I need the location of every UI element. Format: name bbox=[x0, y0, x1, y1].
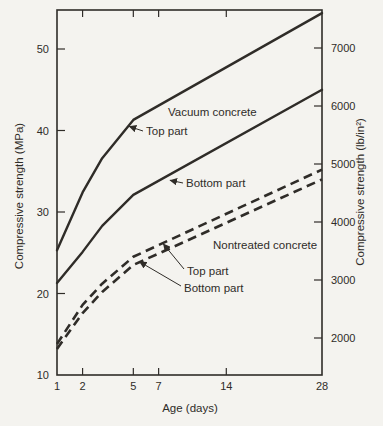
x-axis-tick-label: 1 bbox=[54, 380, 60, 392]
y-left-tick-label: 10 bbox=[37, 369, 49, 381]
vacuum-bottom-part-label-arrow bbox=[170, 180, 183, 183]
nontreated-top-part-label-arrow bbox=[163, 244, 184, 269]
vacuum-concrete-label: Vacuum concrete bbox=[168, 106, 257, 118]
vacuum-bottom-part-label: Bottom part bbox=[186, 177, 246, 189]
x-axis-tick-label: 5 bbox=[130, 380, 136, 392]
y-left-tick-label: 30 bbox=[37, 206, 49, 218]
nontreated-bottom-part-label: Bottom part bbox=[184, 282, 244, 294]
plot-frame bbox=[57, 10, 322, 375]
concrete-strength-chart: 1257142810203040502000300040005000600070… bbox=[0, 0, 383, 426]
vacuum-top-part-label-arrow bbox=[129, 126, 143, 131]
nontreated-concrete-label: Nontreated concrete bbox=[213, 239, 317, 251]
y-right-tick-label: 7000 bbox=[331, 42, 355, 54]
vacuum-top-part-label: Top part bbox=[146, 125, 188, 137]
x-axis-tick-label: 7 bbox=[156, 380, 162, 392]
x-axis-tick-label: 2 bbox=[80, 380, 86, 392]
axes-layer: 1257142810203040502000300040005000600070… bbox=[37, 10, 356, 392]
y-left-tick-label: 50 bbox=[37, 43, 49, 55]
y-right-axis-title: Compressive strength (lb/in²) bbox=[354, 118, 366, 266]
y-right-tick-label: 6000 bbox=[331, 100, 355, 112]
y-right-tick-label: 3000 bbox=[331, 274, 355, 286]
series-vacuum-top-line bbox=[57, 13, 322, 250]
x-axis-tick-label: 14 bbox=[220, 380, 232, 392]
nontreated-top-part-label: Top part bbox=[187, 265, 229, 277]
y-left-tick-label: 20 bbox=[37, 288, 49, 300]
x-axis-title: Age (days) bbox=[162, 402, 218, 414]
x-axis-tick-label: 28 bbox=[316, 380, 328, 392]
annotation-layer: Vacuum concreteTop partBottom partNontre… bbox=[129, 106, 317, 294]
series-nontreated-top-line bbox=[57, 170, 322, 344]
y-left-axis-title: Compressive strength (MPa) bbox=[13, 123, 25, 270]
y-right-tick-label: 2000 bbox=[331, 332, 355, 344]
y-right-tick-label: 5000 bbox=[331, 158, 355, 170]
concrete-strength-figure: 1257142810203040502000300040005000600070… bbox=[0, 0, 383, 426]
y-left-tick-label: 40 bbox=[37, 125, 49, 137]
y-right-tick-label: 4000 bbox=[331, 216, 355, 228]
nontreated-bottom-part-label-arrow bbox=[139, 262, 181, 286]
